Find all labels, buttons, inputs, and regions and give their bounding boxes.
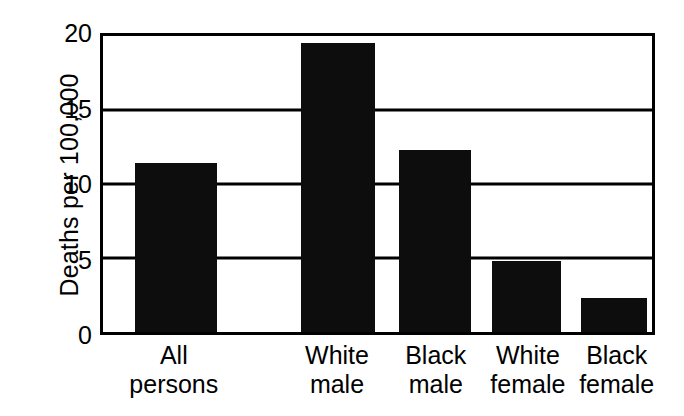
plot-area — [100, 33, 655, 335]
bar — [135, 163, 217, 332]
bar — [399, 150, 470, 332]
x-axis-tick-label-line1: All — [94, 341, 254, 370]
bar — [492, 261, 561, 332]
x-axis-tick-label: Allpersons — [94, 341, 254, 399]
y-axis-tick-label: 10 — [50, 172, 92, 197]
bar — [301, 43, 375, 332]
x-axis-tick-label-line2: persons — [94, 370, 254, 399]
y-axis-tick-labels: 05101520 — [46, 0, 92, 416]
x-axis-tick-label: Blackfemale — [537, 341, 684, 399]
plot-inner — [103, 36, 652, 332]
x-axis-tick-label-line1: Black — [537, 341, 684, 370]
y-axis-tick-label: 20 — [50, 21, 92, 46]
bar — [581, 298, 647, 332]
bar-chart-figure: Deaths per 100,000 05101520 AllpersonsWh… — [0, 0, 684, 416]
gridline — [103, 109, 652, 112]
y-axis-tick-label: 5 — [50, 247, 92, 272]
x-axis-tick-labels: AllpersonsWhitemaleBlackmaleWhitefemaleB… — [100, 341, 655, 413]
x-axis-tick-label-line2: female — [537, 370, 684, 399]
y-axis-tick-label: 15 — [50, 96, 92, 121]
y-axis-tick-label: 0 — [50, 323, 92, 348]
